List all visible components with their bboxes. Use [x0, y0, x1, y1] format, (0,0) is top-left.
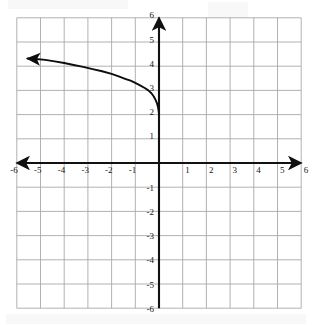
- x-tick-label: 4: [256, 165, 261, 175]
- y-tick-label: -4: [147, 255, 155, 265]
- y-tick-label: 4: [150, 59, 155, 69]
- y-tick-label: 3: [150, 83, 155, 93]
- x-tick-label: -5: [34, 165, 42, 175]
- y-tick-label: -6: [147, 304, 155, 314]
- coordinate-plane: -6-5-4-3-2-1123456654321-1-2-3-4-5-6: [0, 0, 326, 325]
- x-tick-label: 1: [185, 165, 190, 175]
- x-tick-label: 2: [209, 165, 214, 175]
- plotted-curve: [27, 58, 159, 114]
- x-tick-label: -2: [105, 165, 113, 175]
- x-tick-label: 5: [280, 165, 285, 175]
- x-tick-label: 3: [233, 165, 238, 175]
- y-tick-label: -3: [147, 231, 155, 241]
- graph-page: -6-5-4-3-2-1123456654321-1-2-3-4-5-6: [0, 0, 326, 325]
- x-tick-label: -1: [129, 165, 137, 175]
- x-tick-label: -6: [10, 165, 18, 175]
- y-tick-label: -2: [147, 207, 155, 217]
- x-tick-label: -3: [81, 165, 89, 175]
- y-tick-label: -1: [147, 183, 155, 193]
- y-tick-label: 5: [150, 35, 155, 45]
- y-tick-label: -5: [147, 280, 155, 290]
- y-tick-label: 2: [150, 107, 155, 117]
- x-tick-label: -4: [58, 165, 66, 175]
- y-tick-label: 6: [150, 10, 155, 20]
- x-tick-label: 6: [304, 165, 309, 175]
- y-tick-label: 1: [150, 131, 155, 141]
- curve-path: [27, 58, 159, 114]
